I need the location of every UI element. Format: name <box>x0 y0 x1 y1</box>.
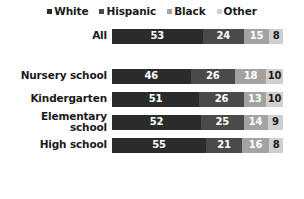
bar-segment-value: 10 <box>268 71 282 81</box>
bar-segment-value: 8 <box>273 140 280 150</box>
category-label: All <box>0 30 112 41</box>
bar-segment-other[interactable]: 10 <box>266 69 283 84</box>
bar-segment-value: 16 <box>249 140 263 150</box>
chart-row: All5324158 <box>0 28 304 44</box>
stacked-bar: 51261310 <box>112 92 283 107</box>
bar-segment-other[interactable]: 8 <box>269 138 283 153</box>
legend-swatch-icon <box>99 9 104 14</box>
legend-item-label: White <box>54 6 88 17</box>
bar-segment-value: 9 <box>272 117 279 127</box>
legend-swatch-icon <box>167 9 172 14</box>
bar-segment-black[interactable]: 15 <box>244 29 270 44</box>
category-label-line1: Nursery school <box>21 69 107 81</box>
bar-segment-white[interactable]: 53 <box>112 29 203 44</box>
bar-segment-hispanic[interactable]: 26 <box>199 92 243 107</box>
bar-segment-hispanic[interactable]: 21 <box>206 138 242 153</box>
chart-plot-area: All5324158Nursery school46261810Kinderga… <box>0 28 304 160</box>
chart-row: Kindergarten51261310 <box>0 91 304 107</box>
bar-segment-white[interactable]: 51 <box>112 92 199 107</box>
bar-segment-value: 53 <box>151 31 165 41</box>
bar-segment-value: 52 <box>150 117 164 127</box>
stacked-bar: 5324158 <box>112 29 283 44</box>
bar-segment-value: 55 <box>152 140 166 150</box>
bar-segment-white[interactable]: 52 <box>112 115 201 130</box>
chart-row: Nursery school46261810 <box>0 68 304 84</box>
bar-segment-white[interactable]: 55 <box>112 138 206 153</box>
bar-segment-value: 15 <box>250 31 264 41</box>
category-label: High school <box>0 139 112 150</box>
category-label-line1: All <box>92 29 107 41</box>
bar-segment-value: 8 <box>273 31 280 41</box>
legend-swatch-icon <box>47 9 52 14</box>
bar-segment-value: 13 <box>248 94 262 104</box>
bar-segment-value: 46 <box>145 71 159 81</box>
bar-segment-hispanic[interactable]: 26 <box>191 69 235 84</box>
bar-segment-value: 24 <box>216 31 230 41</box>
legend-item-label: Other <box>224 6 257 17</box>
stacked-bar: 5521168 <box>112 138 283 153</box>
category-label-line1: High school <box>40 138 107 150</box>
bar-segment-value: 25 <box>216 117 230 127</box>
category-label: Nursery school <box>0 70 112 81</box>
category-label: Kindergarten <box>0 93 112 104</box>
category-label: Elementaryschool <box>0 111 112 133</box>
bar-segment-black[interactable]: 18 <box>235 69 266 84</box>
bar-segment-other[interactable]: 8 <box>269 29 283 44</box>
bar-segment-other[interactable]: 10 <box>266 92 283 107</box>
bar-segment-white[interactable]: 46 <box>112 69 191 84</box>
bar-segment-value: 51 <box>149 94 163 104</box>
legend-item-white[interactable]: White <box>47 6 88 17</box>
bar-segment-black[interactable]: 16 <box>242 138 269 153</box>
bar-segment-value: 21 <box>217 140 231 150</box>
category-label-line1: Kindergarten <box>30 92 107 104</box>
bar-segment-black[interactable]: 14 <box>244 115 268 130</box>
legend-item-other[interactable]: Other <box>217 6 257 17</box>
legend-item-label: Hispanic <box>106 6 156 17</box>
bar-segment-other[interactable]: 9 <box>268 115 283 130</box>
chart-row: Elementaryschool5225149 <box>0 114 304 130</box>
legend-item-black[interactable]: Black <box>167 6 205 17</box>
stacked-bar: 46261810 <box>112 69 283 84</box>
bar-segment-value: 14 <box>249 117 263 127</box>
bar-segment-hispanic[interactable]: 24 <box>203 29 244 44</box>
stacked-bar: 5225149 <box>112 115 283 130</box>
bar-segment-value: 10 <box>268 94 282 104</box>
bar-segment-value: 26 <box>215 94 229 104</box>
legend-item-hispanic[interactable]: Hispanic <box>99 6 156 17</box>
bar-segment-value: 26 <box>206 71 220 81</box>
legend-swatch-icon <box>217 9 222 14</box>
legend-item-label: Black <box>174 6 205 17</box>
bar-segment-value: 18 <box>244 71 258 81</box>
chart-row: High school5521168 <box>0 137 304 153</box>
category-label-line2: school <box>0 122 107 133</box>
bar-segment-black[interactable]: 13 <box>244 92 266 107</box>
bar-segment-hispanic[interactable]: 25 <box>201 115 244 130</box>
chart-legend: WhiteHispanicBlackOther <box>0 6 304 17</box>
